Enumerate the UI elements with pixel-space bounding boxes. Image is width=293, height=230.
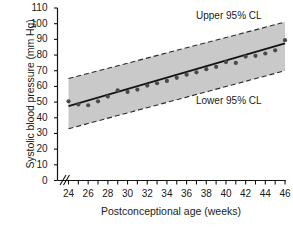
data-point [283, 38, 287, 42]
data-point [244, 55, 248, 59]
data-point [263, 51, 267, 55]
data-point [155, 81, 159, 85]
data-point [175, 76, 179, 80]
data-point [106, 95, 110, 99]
data-point [145, 84, 149, 88]
data-point [86, 103, 90, 107]
data-point [253, 54, 257, 58]
x-tick-label: 26 [77, 189, 99, 199]
x-axis-ticks [69, 181, 286, 185]
data-point [224, 60, 228, 64]
x-axis-title: Postconceptional age (weeks) [57, 205, 285, 217]
y-axis-title: Systolic blood pressure (mm Hg) [24, 4, 36, 184]
annotation-lower-95-cl: Lower 95% CL [196, 95, 262, 106]
annotation-upper-95-cl: Upper 95% CL [196, 10, 262, 21]
data-point [204, 67, 208, 71]
x-tick-label: 30 [117, 189, 139, 199]
data-point [214, 65, 218, 69]
x-tick-label: 42 [235, 189, 257, 199]
data-point [165, 79, 169, 83]
x-tick-label: 38 [195, 189, 217, 199]
data-point [273, 48, 277, 52]
data-point [116, 88, 120, 92]
x-tick-label: 46 [274, 189, 293, 199]
data-point [184, 73, 188, 77]
data-point [125, 90, 129, 94]
data-point [96, 99, 100, 103]
data-point [76, 102, 80, 106]
data-point [135, 87, 139, 91]
data-point [234, 61, 238, 65]
data-point [194, 70, 198, 74]
x-tick-label: 32 [136, 189, 158, 199]
figure-systolic-bp-vs-postconceptional-age: 1101009080706050403020100 24262830323436… [0, 0, 293, 230]
x-tick-label: 36 [176, 189, 198, 199]
data-point [66, 99, 70, 103]
x-tick-label: 44 [254, 189, 276, 199]
